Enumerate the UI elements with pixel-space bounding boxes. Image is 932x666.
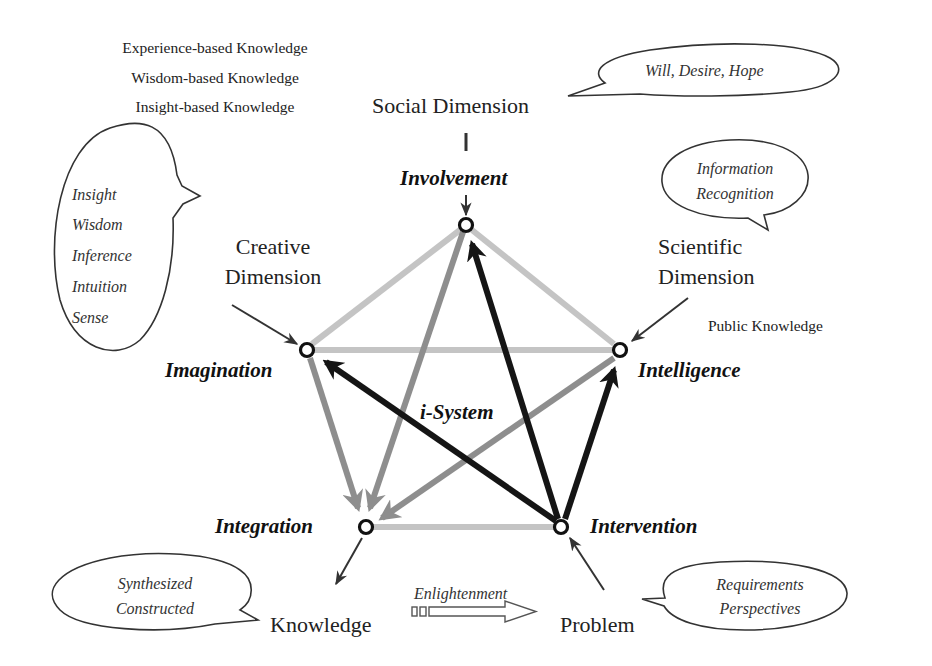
- node-imagination: [301, 344, 314, 357]
- arrow-intervention-imagination: [326, 362, 556, 521]
- mid-edges: [310, 232, 614, 518]
- bubble-creative-item-2: Wisdom: [72, 217, 123, 233]
- arrow-intervention-intelligence: [565, 370, 614, 519]
- creative-dimension-line2: Dimension: [208, 266, 338, 288]
- bubble-creative-item-1: Insight: [72, 187, 116, 203]
- bubble-scientific-line2: Recognition: [665, 186, 805, 202]
- light-edges: [312, 230, 614, 527]
- arrow-to-knowledge: [336, 538, 362, 584]
- problem-label: Problem: [560, 614, 635, 636]
- node-intelligence: [614, 344, 627, 357]
- arrow-to-imagination: [232, 305, 297, 344]
- knowledge-type-insight: Insight-based Knowledge: [80, 99, 350, 115]
- node-label-involvement: Involvement: [400, 168, 507, 189]
- node-label-integration: Integration: [215, 516, 313, 537]
- center-label-i-system: i-System: [420, 402, 494, 423]
- bubble-problem: [642, 561, 847, 630]
- bubble-knowledge-line2: Constructed: [75, 601, 235, 617]
- public-knowledge-label: Public Knowledge: [708, 318, 823, 334]
- edge-involvement-intelligence: [472, 230, 614, 344]
- social-dimension-label: Social Dimension: [372, 95, 529, 117]
- bubble-social-text: Will, Desire, Hope: [645, 63, 764, 79]
- i-system-diagram: Experience-based Knowledge Wisdom-based …: [0, 0, 932, 666]
- node-label-imagination: Imagination: [165, 360, 272, 381]
- node-integration: [360, 521, 373, 534]
- node-label-intelligence: Intelligence: [638, 360, 741, 381]
- knowledge-type-experience: Experience-based Knowledge: [80, 40, 350, 56]
- knowledge-type-wisdom: Wisdom-based Knowledge: [80, 70, 350, 86]
- bubble-creative-item-4: Intuition: [72, 279, 127, 295]
- bubble-problem-line1: Requirements: [690, 577, 830, 593]
- knowledge-label: Knowledge: [270, 614, 371, 636]
- bubble-creative-item-5: Sense: [72, 310, 108, 326]
- dark-edges: [326, 244, 614, 521]
- dash-1: [412, 607, 417, 616]
- bubble-knowledge-line1: Synthesized: [75, 576, 235, 592]
- node-involvement: [460, 219, 473, 232]
- node-label-intervention: Intervention: [590, 516, 697, 537]
- scientific-dimension-line2: Dimension: [658, 266, 755, 288]
- arrow-to-intervention: [570, 538, 604, 590]
- creative-dimension-line1: Creative: [208, 236, 338, 258]
- scientific-dimension-line1: Scientific: [658, 236, 742, 258]
- node-intervention: [555, 521, 568, 534]
- arrow-intelligence-integration: [382, 358, 614, 518]
- hollow-arrow-icon: [429, 601, 536, 622]
- bubble-scientific-line1: Information: [665, 161, 805, 177]
- dash-2: [420, 607, 426, 616]
- enlightenment-arrow: [412, 601, 536, 622]
- arrow-to-intelligence: [632, 298, 688, 341]
- bubble-problem-line2: Perspectives: [690, 601, 830, 617]
- enlightenment-label: Enlightenment: [414, 586, 507, 602]
- arrow-involvement-integration: [370, 232, 463, 508]
- bubble-creative-item-3: Inference: [72, 248, 132, 264]
- speech-bubbles: [52, 44, 847, 630]
